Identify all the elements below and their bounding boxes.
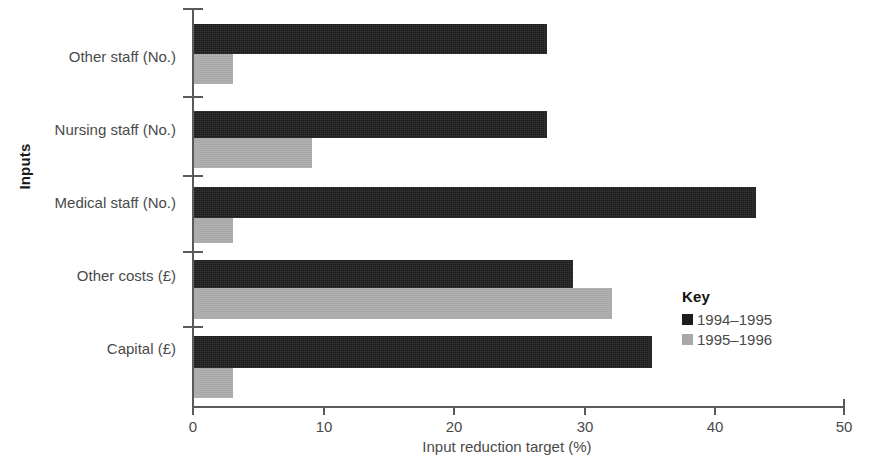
legend-swatch-icon	[682, 334, 693, 345]
x-axis-tick	[584, 406, 586, 415]
x-axis-tick	[323, 406, 325, 415]
bar-nursing-staff-1995-1996	[194, 138, 312, 168]
legend-item-1994-1995: 1994–1995	[682, 311, 772, 328]
legend-label-1995-1996: 1995–1996	[697, 331, 772, 348]
x-axis-tick	[192, 406, 194, 415]
category-label-other-staff: Other staff (No.)	[69, 48, 176, 65]
legend-swatch-icon	[682, 314, 693, 325]
x-axis-line	[192, 406, 845, 408]
legend: Key 1994–1995 1995–1996	[682, 288, 772, 351]
category-label-capital: Capital (£)	[107, 340, 176, 357]
x-tick-label-40: 40	[707, 418, 724, 435]
x-axis-tick	[714, 406, 716, 415]
bar-other-costs-1994-1995	[194, 260, 573, 288]
bar-other-staff-1995-1996	[194, 54, 233, 84]
category-label-nursing-staff: Nursing staff (No.)	[55, 121, 176, 138]
bar-chart: Inputs Other staff (No.) Nursing staff (…	[0, 0, 884, 462]
x-tick-label-30: 30	[577, 418, 594, 435]
legend-title: Key	[682, 288, 772, 305]
category-label-other-costs: Other costs (£)	[77, 267, 176, 284]
y-axis-tick	[183, 96, 203, 98]
bar-medical-staff-1994-1995	[194, 187, 756, 218]
bar-other-staff-1994-1995	[194, 24, 547, 54]
bar-capital-1994-1995	[194, 336, 652, 368]
bar-capital-1995-1996	[194, 368, 233, 398]
y-axis-tick	[183, 175, 203, 177]
x-tick-label-50: 50	[836, 418, 853, 435]
x-axis-tick	[843, 399, 845, 408]
bar-nursing-staff-1994-1995	[194, 111, 547, 138]
y-axis-title: Inputs	[16, 117, 33, 217]
y-axis-tick	[183, 326, 203, 328]
legend-item-1995-1996: 1995–1996	[682, 331, 772, 348]
y-axis-tick	[183, 8, 203, 10]
x-tick-label-20: 20	[446, 418, 463, 435]
x-axis-title: Input reduction target (%)	[0, 438, 884, 455]
y-axis-tick	[183, 251, 203, 253]
legend-label-1994-1995: 1994–1995	[697, 311, 772, 328]
x-axis-tick	[453, 406, 455, 415]
bar-other-costs-1995-1996	[194, 288, 612, 319]
category-label-medical-staff: Medical staff (No.)	[55, 194, 176, 211]
x-tick-label-0: 0	[189, 418, 197, 435]
bar-medical-staff-1995-1996	[194, 218, 233, 243]
x-tick-label-10: 10	[316, 418, 333, 435]
x-axis-title-text: Input reduction target (%)	[422, 438, 591, 455]
